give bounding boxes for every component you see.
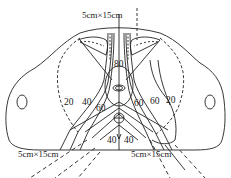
rpo-beam-edge-1 xyxy=(150,140,170,178)
field-label-right-posterior: 5cm×15cm xyxy=(131,150,172,159)
isodose-20-right xyxy=(156,38,184,134)
right-marker-oval xyxy=(205,95,215,109)
lpo-beam-edge-3 xyxy=(78,152,100,178)
field-label-anterior: 5cm×15cm xyxy=(82,11,123,20)
isodose-label-left-20: 20 xyxy=(64,98,74,108)
left-marker-oval xyxy=(17,95,27,109)
isodose-label-bottom-40-right: 40 xyxy=(124,136,134,146)
top-right-band xyxy=(131,37,161,55)
lpo-beam-edge-1 xyxy=(30,140,87,178)
isodose-label-left-60: 60 xyxy=(96,104,106,114)
isodose-label-left-40: 40 xyxy=(82,98,92,108)
isodose-diagram: 5cm×15cm 5cm×15cm 5cm×15cm 80 20 40 60 6… xyxy=(0,0,231,178)
isodose-label-right-60b: 60 xyxy=(150,97,160,107)
isodose-label-bottom-40-left: 40 xyxy=(107,136,117,146)
top-left-band xyxy=(78,37,108,55)
lpo-beam-edge-2 xyxy=(55,148,95,178)
isodose-label-right-60a: 60 xyxy=(134,99,144,109)
field-label-left-posterior: 5cm×15cm xyxy=(18,150,59,159)
isodose-20-left xyxy=(57,38,80,132)
isodose-label-right-20: 20 xyxy=(166,96,176,106)
isodose-label-80: 80 xyxy=(114,60,124,70)
